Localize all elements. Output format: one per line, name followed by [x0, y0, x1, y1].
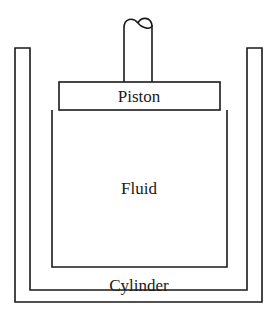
figure-canvas: Piston Fluid Cylinder [0, 0, 278, 318]
piston-rod [124, 18, 152, 82]
fluid-label: Fluid [0, 180, 278, 197]
rod-break-squiggle-tail [138, 18, 152, 25]
piston-label: Piston [0, 88, 278, 105]
cylinder-label: Cylinder [0, 277, 278, 294]
piston-cylinder-diagram [0, 0, 278, 318]
rod-break-squiggle [124, 19, 152, 28]
